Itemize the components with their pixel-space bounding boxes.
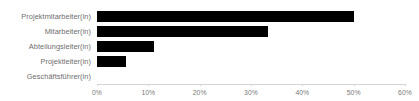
x-tick-mark: [148, 84, 149, 86]
category-label: Abteilungsleiter(in): [0, 39, 95, 54]
x-tick-mark: [251, 84, 252, 86]
x-tick-mark: [97, 84, 98, 86]
bar: [97, 56, 126, 67]
bar: [97, 26, 268, 37]
bar-row: [97, 39, 405, 54]
x-tick-label: 50%: [347, 87, 361, 99]
bar-row: [97, 9, 405, 24]
category-label: Mitarbeiter(in): [0, 24, 95, 39]
x-tick-mark: [302, 84, 303, 86]
bar-row: [97, 24, 405, 39]
category-label: Geschäftsführer(in): [0, 69, 95, 84]
category-label: Projektmitarbeiter(in): [0, 9, 95, 24]
bar-row: [97, 69, 405, 84]
x-axis-tick-labels: 0%10%20%30%40%50%60%: [97, 87, 405, 99]
x-tick-label: 0%: [92, 87, 102, 99]
x-tick-label: 40%: [295, 87, 309, 99]
bar-row: [97, 54, 405, 69]
bar: [97, 11, 354, 22]
x-tick-mark: [405, 84, 406, 86]
bar-chart: Projektmitarbeiter(in) Mitarbeiter(in) A…: [0, 0, 419, 101]
x-tick-label: 10%: [141, 87, 155, 99]
x-tick-label: 60%: [398, 87, 412, 99]
x-tick-label: 20%: [193, 87, 207, 99]
x-tick-label: 30%: [244, 87, 258, 99]
plot-area: [97, 9, 405, 84]
bar: [97, 41, 154, 52]
category-axis-labels: Projektmitarbeiter(in) Mitarbeiter(in) A…: [0, 9, 95, 84]
category-label: Projektleiter(in): [0, 54, 95, 69]
x-tick-mark: [200, 84, 201, 86]
bar-series: [97, 9, 405, 84]
x-tick-mark: [354, 84, 355, 86]
